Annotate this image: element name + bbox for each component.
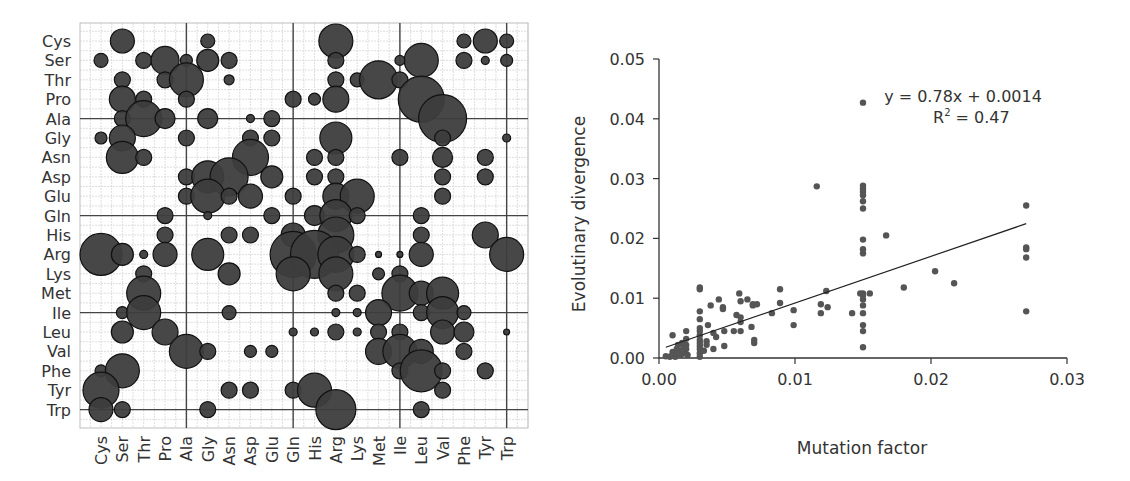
col-label: Asn: [220, 436, 239, 465]
bubble: [328, 52, 344, 68]
bubble: [191, 179, 225, 213]
bubble: [140, 250, 148, 258]
scatter-points: [663, 99, 1030, 360]
row-label: Val: [47, 342, 71, 361]
data-point: [814, 183, 820, 189]
bubble: [169, 334, 203, 368]
bubble: [323, 86, 349, 112]
data-point: [744, 296, 750, 302]
data-point: [901, 284, 907, 290]
bubble: [204, 212, 212, 220]
data-point: [777, 286, 783, 292]
data-point: [697, 308, 703, 314]
data-point: [731, 328, 737, 334]
bubble: [266, 345, 278, 357]
r-squared-value: = 0.47: [951, 108, 1010, 127]
bubble-matrix-bubbles: [80, 24, 524, 430]
bubble: [328, 169, 344, 185]
data-point: [932, 268, 938, 274]
y-tick-label: 0.05: [609, 50, 645, 69]
bubble: [200, 402, 216, 418]
bubble: [409, 242, 433, 266]
data-point: [707, 302, 713, 308]
bubble: [397, 251, 403, 257]
bubble: [201, 34, 215, 48]
bubble: [316, 390, 356, 430]
row-label: Asp: [42, 168, 71, 187]
data-point: [824, 304, 830, 310]
col-label: Arg: [327, 436, 346, 463]
col-label: Trp: [498, 436, 517, 461]
bubble: [114, 72, 130, 88]
data-point: [713, 334, 719, 340]
data-point: [683, 328, 689, 334]
data-point: [860, 328, 866, 334]
bubble: [473, 29, 497, 53]
row-label: Asn: [42, 148, 71, 167]
bubble: [246, 115, 254, 123]
y-tick-label: 0.01: [609, 289, 645, 308]
data-point: [669, 332, 675, 338]
bubble: [481, 56, 489, 64]
figure: CysSerThrProAlaGlyAsnAspGluGlnHisArgLysM…: [0, 0, 1130, 481]
data-point: [683, 342, 689, 348]
bubble: [349, 246, 365, 262]
col-label: Thr: [135, 436, 154, 464]
data-point: [701, 348, 707, 354]
row-label: Ala: [46, 110, 71, 129]
bubble: [435, 363, 451, 379]
bubble: [264, 208, 280, 224]
x-tick-label: 0.00: [641, 370, 677, 389]
row-label: Tyr: [47, 381, 72, 400]
data-point: [721, 328, 727, 334]
data-point: [818, 301, 824, 307]
y-axis-label: Evolutinary divergence: [569, 116, 589, 312]
data-point: [860, 302, 866, 308]
bubble: [457, 34, 471, 48]
row-label: Pro: [46, 90, 71, 109]
bubble: [413, 208, 429, 224]
bubble: [477, 363, 493, 379]
data-point: [1023, 246, 1029, 252]
bubble: [490, 237, 524, 271]
bubble: [307, 149, 323, 165]
data-point: [951, 280, 957, 286]
bubble-matrix-col-labels: CysSerThrProAlaGlyAsnAspGluGlnHisArgLysM…: [92, 436, 517, 466]
col-label: Gln: [284, 436, 303, 463]
regression-equation: y = 0.78x + 0.0014: [884, 87, 1042, 106]
col-label: Ser: [113, 436, 132, 463]
bubble: [309, 93, 321, 105]
bubble: [404, 43, 438, 77]
data-point: [790, 322, 796, 328]
bubble: [366, 300, 392, 326]
col-label: Cys: [92, 436, 111, 465]
bubble: [435, 169, 451, 185]
bubble: [349, 208, 365, 224]
bubble: [94, 53, 108, 67]
y-tick-label: 0.04: [609, 110, 645, 129]
y-tick-label: 0.03: [609, 170, 645, 189]
data-point: [736, 290, 742, 296]
bubble: [456, 343, 472, 359]
bubble: [242, 227, 258, 243]
bubble: [157, 227, 173, 243]
bubble: [114, 402, 130, 418]
data-point: [857, 290, 863, 296]
bubble-matrix-row-labels: CysSerThrProAlaGlyAsnAspGluGlnHisArgLysM…: [41, 32, 71, 420]
col-label: Met: [370, 436, 389, 466]
bubble: [157, 208, 173, 224]
bubble: [89, 398, 113, 422]
bubble: [285, 188, 301, 204]
bubble: [477, 169, 493, 185]
x-axis-label: Mutation factor: [797, 438, 927, 458]
bubble: [435, 188, 451, 204]
bubble: [197, 49, 219, 71]
regression-line: [666, 224, 1026, 348]
data-point: [697, 284, 703, 290]
bubble: [454, 322, 474, 342]
row-label: Trp: [46, 401, 71, 420]
col-label: Tyr: [476, 436, 495, 461]
bubble: [110, 29, 134, 53]
col-label: Glu: [263, 436, 282, 463]
bubble: [307, 169, 323, 185]
